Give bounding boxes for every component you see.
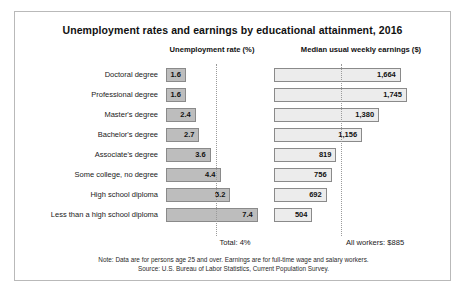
bar-value-median-weekly-earnings: 756 — [274, 168, 327, 182]
category-label: Master's degree — [15, 108, 158, 122]
footnote-source: Source: U.S. Bureau of Labor Statistics,… — [15, 264, 452, 273]
bar-value-median-weekly-earnings: 692 — [274, 188, 322, 202]
bar-value-unemployment-rate: 1.6 — [166, 88, 181, 102]
bar-value-unemployment-rate: 4.4 — [166, 168, 216, 182]
chart-row: High school diploma5.2692 — [15, 188, 452, 202]
bar-value-median-weekly-earnings: 1,156 — [274, 128, 357, 142]
earnings-all-workers-annotation: All workers: $885 — [295, 238, 455, 247]
bar-value-median-weekly-earnings: 504 — [274, 208, 307, 222]
chart-row: Less than a high school diploma7.4504 — [15, 208, 452, 222]
reference-line-earnings-all-workers — [341, 64, 342, 236]
chart-container: Unemployment rates and earnings by educa… — [14, 11, 451, 281]
bar-value-median-weekly-earnings: 1,664 — [274, 68, 396, 82]
bar-value-median-weekly-earnings: 819 — [274, 148, 331, 162]
category-label: High school diploma — [15, 188, 158, 202]
category-label: Professional degree — [15, 88, 158, 102]
chart-row: Doctoral degree1.61,664 — [15, 68, 452, 82]
bar-value-median-weekly-earnings: 1,745 — [274, 88, 402, 102]
bar-value-unemployment-rate: 7.4 — [166, 208, 253, 222]
category-label: Associate's degree — [15, 148, 158, 162]
footnote-note: Note: Data are for persons age 25 and ov… — [15, 255, 452, 264]
reference-line-unemployment-total — [216, 64, 217, 236]
bar-value-unemployment-rate: 2.4 — [166, 108, 191, 122]
footnotes: Note: Data are for persons age 25 and ov… — [15, 255, 452, 273]
category-label: Doctoral degree — [15, 68, 158, 82]
chart-row: Bachelor's degree2.71,156 — [15, 128, 452, 142]
category-label: Some college, no degree — [15, 168, 158, 182]
category-label: Bachelor's degree — [15, 128, 158, 142]
chart-row: Master's degree2.41,380 — [15, 108, 452, 122]
bar-value-median-weekly-earnings: 1,380 — [274, 108, 374, 122]
unemployment-total-annotation: Total: 4% — [165, 238, 305, 247]
category-label: Less than a high school diploma — [15, 208, 158, 222]
bar-value-unemployment-rate: 2.7 — [166, 128, 194, 142]
chart-row: Professional degree1.61,745 — [15, 88, 452, 102]
chart-row: Some college, no degree4.4756 — [15, 168, 452, 182]
bar-value-unemployment-rate: 3.6 — [166, 148, 206, 162]
bar-value-unemployment-rate: 1.6 — [166, 68, 181, 82]
chart-row: Associate's degree3.6819 — [15, 148, 452, 162]
